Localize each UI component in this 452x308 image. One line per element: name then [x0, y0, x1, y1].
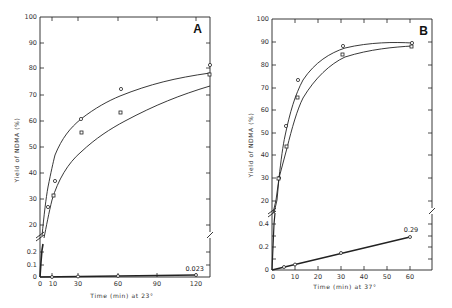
panel-b-x-tick-labels: 0 10 20 30 40 50 60 [271, 273, 414, 281]
y-tick-label: 90 [261, 38, 269, 46]
data-point-circle [208, 63, 211, 66]
data-point-circle [341, 44, 344, 47]
panel-a-axes [40, 17, 210, 277]
y-tick-label: 0.1 [27, 261, 37, 269]
data-point-circle [294, 263, 297, 266]
panel-a-lower-curve [44, 86, 210, 238]
x-tick-label: 20 [314, 273, 322, 281]
panel-a-y-tick-labels: 100 90 80 70 60 50 40 30 20 0.2 0.1 0 [25, 13, 37, 281]
data-point-square [119, 111, 122, 114]
panel-a-upper-curve [42, 73, 210, 236]
x-tick-label: 30 [337, 273, 345, 281]
panel-a-markers [46, 63, 211, 278]
data-point-circle [340, 252, 343, 255]
y-tick-label: 40 [261, 151, 269, 159]
y-tick-label: 80 [29, 64, 37, 72]
y-tick-label: 50 [29, 143, 37, 151]
data-point-square [410, 45, 413, 48]
x-tick-label: 30 [74, 280, 82, 288]
data-point-square [341, 53, 344, 56]
y-tick-label: 50 [261, 129, 269, 137]
panel-b-y-tick-labels: 100 90 80 70 60 50 40 30 20 0.4 0.2 0 [257, 15, 269, 274]
panel-b: 100 90 80 70 60 50 40 30 20 0.4 0.2 0 0 … [247, 15, 435, 290]
panel-b-annotation: 0.29 [404, 226, 418, 234]
data-point-square [285, 145, 288, 148]
x-tick-label: 60 [114, 280, 122, 288]
data-point-square [296, 96, 299, 99]
y-tick-label: 0.2 [259, 243, 269, 251]
y-tick-label: 20 [29, 221, 37, 229]
data-point-circle [77, 275, 80, 278]
y-tick-label: 60 [29, 117, 37, 125]
y-tick-label: 70 [29, 91, 37, 99]
panel-a-right-axis-break [207, 232, 213, 238]
data-point-circle [195, 274, 198, 277]
x-tick-label: 10 [291, 273, 299, 281]
y-tick-label: 0 [33, 273, 37, 281]
panel-a-y-axis-title: Yield of NDMA (%) [13, 118, 20, 184]
y-tick-label: 70 [261, 84, 269, 92]
x-tick-label: 40 [360, 273, 368, 281]
panel-b-upper-curve [273, 43, 412, 213]
panel-a: 100 90 80 70 60 50 40 30 20 0.2 0.1 0 0 … [13, 13, 213, 299]
y-tick-label: 0.4 [259, 220, 269, 228]
y-tick-label: 0.2 [27, 248, 37, 256]
panel-b-right-axis-break [429, 208, 435, 214]
data-point-square [52, 194, 55, 197]
data-point-circle [79, 117, 82, 120]
panel-a-x-axis-title: Time (min) at 23° [89, 292, 153, 299]
data-point-circle [296, 78, 299, 81]
x-tick-label: 0 [38, 280, 42, 288]
data-point-circle [117, 275, 120, 278]
panel-a-y-ticks [40, 17, 210, 277]
y-tick-label: 100 [257, 15, 269, 23]
panel-b-y-axis-title: Yield of NDMA (%) [247, 113, 254, 179]
panel-b-x-axis-title: Time (min) at 37° [312, 283, 376, 290]
x-tick-label: 0 [271, 273, 275, 281]
data-point-circle [284, 124, 287, 127]
data-point-square [80, 131, 83, 134]
data-point-circle [409, 236, 412, 239]
y-tick-label: 40 [29, 169, 37, 177]
panel-a-annotation: 0.023 [185, 265, 204, 273]
y-tick-label: 30 [29, 195, 37, 203]
x-tick-label: 50 [383, 273, 391, 281]
panel-a-x-tick-labels: 0 10 30 60 90 120 [38, 280, 202, 288]
data-point-circle [53, 179, 56, 182]
y-tick-label: 90 [29, 39, 37, 47]
data-point-circle [410, 41, 413, 44]
y-tick-label: 80 [261, 61, 269, 69]
y-tick-label: 0 [265, 266, 269, 274]
figure: 100 90 80 70 60 50 40 30 20 0.2 0.1 0 0 … [0, 0, 452, 308]
x-tick-label: 10 [49, 280, 57, 288]
data-point-circle [46, 205, 49, 208]
panel-b-markers [277, 41, 414, 268]
data-point-square [277, 177, 280, 180]
data-point-circle [51, 276, 54, 279]
y-tick-label: 30 [261, 174, 269, 182]
y-tick-label: 20 [261, 197, 269, 205]
data-point-circle [119, 87, 122, 90]
x-tick-label: 60 [406, 273, 414, 281]
data-point-circle [283, 266, 286, 269]
panel-b-lower-curve [274, 46, 412, 213]
panel-b-label: B [419, 24, 428, 38]
x-tick-label: 90 [153, 280, 161, 288]
y-tick-label: 100 [25, 13, 37, 21]
y-tick-label: 60 [261, 106, 269, 114]
data-point-square [208, 73, 211, 76]
x-tick-label: 120 [190, 280, 202, 288]
panel-a-label: A [193, 22, 202, 36]
